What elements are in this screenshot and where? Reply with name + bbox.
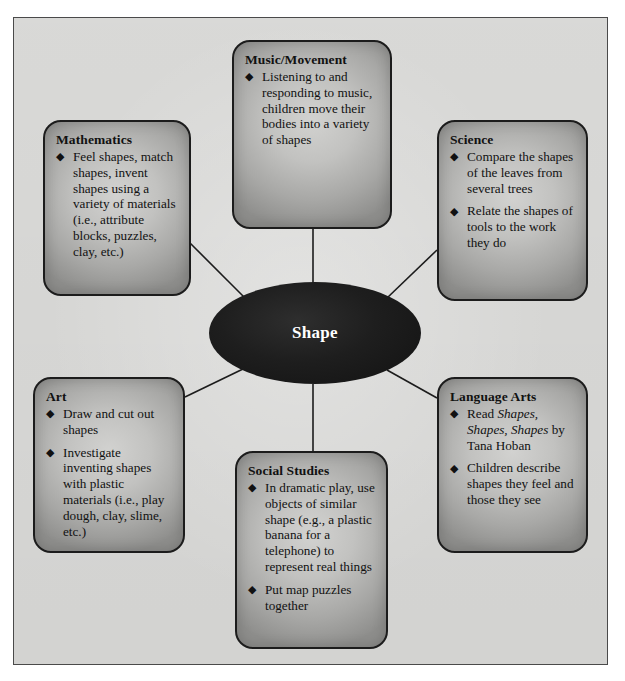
node-art[interactable]: Art ◆ Draw and cut out shapes ◆ Investig… — [33, 377, 185, 553]
node-title: Science — [450, 132, 576, 148]
bullet-item: ◆ In dramatic play, use objects of simil… — [248, 480, 376, 575]
node-title: Music/Movement — [245, 52, 380, 68]
diagram-canvas: Music/Movement ◆ Listening to and respon… — [0, 0, 625, 681]
bullet-text: Investigate inventing shapes with plasti… — [63, 445, 164, 539]
diamond-bullet-icon: ◆ — [56, 150, 64, 164]
bullet-text: Feel shapes, match shapes, invent shapes… — [73, 149, 176, 259]
node-music-movement[interactable]: Music/Movement ◆ Listening to and respon… — [232, 40, 392, 229]
bullet-item: ◆ Read Shapes, Shapes, Shapes by Tana Ho… — [450, 406, 576, 454]
node-bullet-list: ◆ Listening to and responding to music, … — [245, 69, 380, 148]
node-mathematics[interactable]: Mathematics ◆ Feel shapes, match shapes,… — [43, 120, 191, 296]
bullet-item: ◆ Feel shapes, match shapes, invent shap… — [56, 149, 179, 260]
bullet-item: ◆ Children describe shapes they feel and… — [450, 460, 576, 508]
bullet-item: ◆ Listening to and responding to music, … — [245, 69, 380, 148]
bullet-text: Compare the shapes of the leaves from se… — [467, 149, 573, 196]
node-bullet-list: ◆ In dramatic play, use objects of simil… — [248, 480, 376, 614]
diamond-bullet-icon: ◆ — [450, 407, 458, 421]
node-title: Mathematics — [56, 132, 179, 148]
bullet-item: ◆ Compare the shapes of the leaves from … — [450, 149, 576, 197]
diamond-bullet-icon: ◆ — [248, 481, 256, 495]
bullet-text: Draw and cut out shapes — [63, 406, 154, 437]
bullet-text: In dramatic play, use objects of similar… — [265, 480, 375, 574]
diamond-bullet-icon: ◆ — [450, 462, 458, 476]
bullet-text: Listening to and responding to music, ch… — [262, 69, 372, 147]
node-language-arts[interactable]: Language Arts ◆ Read Shapes, Shapes, Sha… — [437, 377, 588, 553]
diamond-bullet-icon: ◆ — [450, 205, 458, 219]
bullet-item: ◆ Investigate inventing shapes with plas… — [46, 445, 173, 540]
center-node-label: Shape — [292, 323, 338, 343]
node-title: Language Arts — [450, 389, 576, 405]
diamond-bullet-icon: ◆ — [245, 70, 253, 84]
node-title: Art — [46, 389, 173, 405]
bullet-text-prefix: Read — [467, 406, 497, 421]
node-bullet-list: ◆ Feel shapes, match shapes, invent shap… — [56, 149, 179, 260]
bullet-item: ◆ Draw and cut out shapes — [46, 406, 173, 438]
bullet-item: ◆ Relate the shapes of tools to the work… — [450, 203, 576, 251]
diamond-bullet-icon: ◆ — [248, 583, 256, 597]
node-bullet-list: ◆ Compare the shapes of the leaves from … — [450, 149, 576, 251]
diamond-bullet-icon: ◆ — [46, 446, 54, 460]
node-social-studies[interactable]: Social Studies ◆ In dramatic play, use o… — [235, 451, 388, 649]
diamond-bullet-icon: ◆ — [450, 150, 458, 164]
diamond-bullet-icon: ◆ — [46, 407, 54, 421]
bullet-item: ◆ Put map puzzles together — [248, 582, 376, 614]
node-bullet-list: ◆ Read Shapes, Shapes, Shapes by Tana Ho… — [450, 406, 576, 508]
node-title: Social Studies — [248, 463, 376, 479]
node-science[interactable]: Science ◆ Compare the shapes of the leav… — [437, 120, 588, 301]
bullet-text: Put map puzzles together — [265, 582, 351, 613]
bullet-text: Relate the shapes of tools to the work t… — [467, 203, 573, 250]
node-bullet-list: ◆ Draw and cut out shapes ◆ Investigate … — [46, 406, 173, 540]
center-node-shape[interactable]: Shape — [209, 282, 421, 384]
bullet-text: Children describe shapes they feel and t… — [467, 460, 574, 507]
bullet-text-rich: Read Shapes, Shapes, Shapes by Tana Hoba… — [467, 406, 565, 453]
